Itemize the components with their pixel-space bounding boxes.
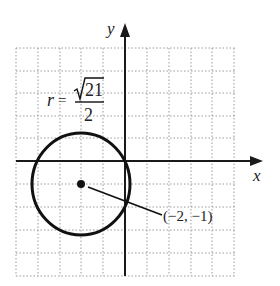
radius-denominator: 2 [84, 105, 93, 125]
y-axis-arrow-icon [120, 23, 130, 37]
radius-lhs: r [47, 90, 55, 110]
center-point [77, 180, 85, 188]
x-axis [16, 156, 263, 166]
center-label: (−2, −1) [163, 208, 212, 225]
circle-graph-figure: x y (−2, −1) r = 21 2 [0, 0, 280, 286]
y-axis [120, 23, 130, 276]
y-axis-label: y [105, 19, 115, 38]
radius-numerator: 21 [85, 80, 103, 100]
radius-equals: = [58, 92, 66, 108]
radius-label: r = 21 2 [47, 78, 104, 125]
x-axis-arrow-icon [250, 156, 263, 166]
x-axis-label: x [252, 166, 261, 185]
